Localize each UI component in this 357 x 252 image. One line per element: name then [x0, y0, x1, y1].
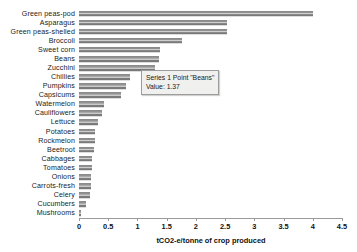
bar-category-label: Potatoes [46, 128, 75, 136]
bar-category-label: Sweet corn [38, 46, 75, 54]
bar[interactable] [79, 174, 91, 180]
bar[interactable] [79, 138, 95, 144]
bar-row[interactable]: Carrots-fresh [79, 181, 342, 190]
x-axis-tick-label: 4.5 [337, 222, 347, 231]
x-axis-tick-label: 4 [311, 222, 315, 231]
x-axis-line [79, 218, 343, 219]
bar-category-label: Green peas-pod [22, 10, 75, 18]
bar-row[interactable]: Cauliflowers [79, 109, 342, 118]
bar-row[interactable]: Beans [79, 54, 342, 63]
bar[interactable] [79, 20, 227, 26]
bar[interactable] [79, 111, 102, 117]
tooltip-value: Value: 1.37 [146, 82, 214, 91]
chart-container: Green peas-podAsparagusGreen peas-shelle… [0, 0, 357, 252]
bar-category-label: Onions [52, 173, 75, 181]
bar[interactable] [79, 47, 160, 53]
x-axis-tick-mark [313, 218, 314, 221]
x-axis-tick-mark [167, 218, 168, 221]
bar-row[interactable]: Onions [79, 172, 342, 181]
bar[interactable] [79, 29, 227, 35]
bar-category-label: Asparagus [40, 19, 75, 27]
x-axis-tick-mark [342, 218, 343, 221]
bar-category-label: Green peas-shelled [11, 28, 75, 36]
x-axis-tick-mark [79, 218, 80, 221]
bar-row[interactable]: Green peas-shelled [79, 27, 342, 36]
x-axis-tick-mark [254, 218, 255, 221]
data-tooltip: Series 1 Point "Beans" Value: 1.37 [141, 70, 219, 95]
bar-category-label: Pumpkins [43, 82, 75, 90]
bar[interactable] [79, 120, 98, 126]
bar-category-label: Cucumbers [37, 200, 75, 208]
bar-row[interactable]: Tomatoes [79, 163, 342, 172]
bar[interactable] [79, 210, 81, 216]
bar[interactable] [79, 165, 92, 171]
bar[interactable] [79, 147, 94, 153]
x-axis-tick-mark [137, 218, 138, 221]
bar-category-label: Celery [54, 191, 75, 199]
bar-row[interactable]: Beetroot [79, 145, 342, 154]
x-axis-tick-mark [225, 218, 226, 221]
x-axis-title: tCO2-e/tonne of crop produced [156, 236, 265, 245]
tooltip-series-point: Series 1 Point "Beans" [146, 73, 214, 82]
bar-row[interactable]: Potatoes [79, 127, 342, 136]
bar-category-label: Beans [54, 55, 75, 63]
bar-category-label: Broccoli [49, 37, 75, 45]
bar[interactable] [79, 74, 130, 80]
bar-category-label: Cauliflowers [35, 109, 75, 117]
bar-category-label: Watermelon [36, 100, 75, 108]
bar[interactable] [79, 11, 313, 17]
plot-area: Green peas-podAsparagusGreen peas-shelle… [79, 9, 342, 218]
bar-row[interactable]: Cucumbers [79, 200, 342, 209]
bar-category-label: Rockmelon [38, 137, 75, 145]
x-axis-tick-label: 1.5 [162, 222, 172, 231]
bar-row[interactable]: Asparagus [79, 18, 342, 27]
bar[interactable] [79, 92, 121, 98]
bar[interactable] [79, 38, 182, 44]
bar-row[interactable]: Celery [79, 191, 342, 200]
bar-row[interactable]: Rockmelon [79, 136, 342, 145]
bar-row[interactable]: Lettuce [79, 118, 342, 127]
bar-row[interactable]: Broccoli [79, 36, 342, 45]
bar[interactable] [79, 83, 126, 89]
bar[interactable] [79, 102, 104, 108]
bar-row[interactable]: Cabbages [79, 154, 342, 163]
x-axis-tick-mark [284, 218, 285, 221]
bar-category-label: Carrots-fresh [32, 182, 75, 190]
bar[interactable] [79, 192, 90, 198]
bar[interactable] [79, 129, 95, 135]
x-axis-tick-label: 2 [194, 222, 198, 231]
bar-category-label: Capsicums [39, 91, 75, 99]
x-axis-tick-label: 0.5 [103, 222, 113, 231]
bar[interactable] [79, 201, 86, 207]
bar[interactable] [79, 183, 91, 189]
bar-category-label: Lettuce [51, 118, 75, 126]
bar-row[interactable]: Sweet corn [79, 45, 342, 54]
bar[interactable] [79, 156, 92, 162]
x-axis-tick-label: 3.5 [278, 222, 288, 231]
bar-category-label: Mushrooms [37, 209, 75, 217]
x-axis-tick-label: 1 [135, 222, 139, 231]
bar-row[interactable]: Mushrooms [79, 209, 342, 218]
bar[interactable] [79, 56, 159, 62]
bar-row[interactable]: Watermelon [79, 100, 342, 109]
bar-category-label: Chillies [51, 73, 75, 81]
bar-category-label: Cabbages [42, 155, 75, 163]
x-axis-tick-label: 2.5 [220, 222, 230, 231]
bar-category-label: Zucchini [47, 64, 75, 72]
bar-category-label: Tomatoes [43, 164, 75, 172]
x-axis-tick-label: 3 [252, 222, 256, 231]
x-axis-tick-label: 0 [77, 222, 81, 231]
x-axis-tick-mark [196, 218, 197, 221]
x-axis-tick-mark [108, 218, 109, 221]
bar-row[interactable]: Green peas-pod [79, 9, 342, 18]
bar-category-label: Beetroot [47, 146, 75, 154]
